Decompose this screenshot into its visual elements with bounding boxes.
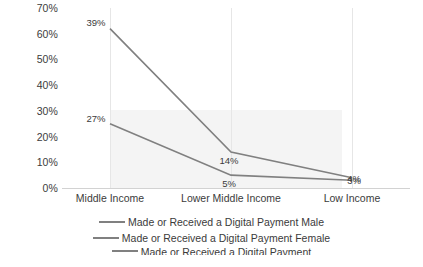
legend-item-male[interactable]: Made or Received a Digital Payment Male — [0, 214, 423, 230]
data-label: 14% — [219, 156, 238, 166]
x-axis-tick: Low Income — [324, 192, 381, 204]
legend-item-overall[interactable]: Made or Received a Digital Payment — [0, 246, 423, 255]
line-chart: 70%60%50%40%30%20%10%0% 39%14%4%27%5%3% … — [0, 0, 423, 267]
legend-swatch-overall — [112, 250, 138, 252]
legend-item-female[interactable]: Made or Received a Digital Payment Femal… — [0, 230, 423, 246]
x-axis-tick: Middle Income — [76, 192, 144, 204]
legend-label-overall: Made or Received a Digital Payment — [141, 246, 311, 255]
legend-swatch-female — [93, 237, 119, 239]
data-label: 27% — [86, 114, 105, 124]
legend-label-male: Made or Received a Digital Payment Male — [128, 216, 324, 228]
data-label: 39% — [86, 18, 105, 28]
data-label: 5% — [222, 179, 236, 189]
x-axis: Middle IncomeLower Middle IncomeLow Inco… — [62, 192, 410, 208]
chart-legend: Made or Received a Digital Payment Male … — [0, 214, 423, 255]
data-label: 3% — [347, 176, 361, 186]
legend-label-female: Made or Received a Digital Payment Femal… — [122, 232, 330, 244]
legend-swatch-male — [99, 221, 125, 223]
x-axis-tick: Lower Middle Income — [181, 192, 281, 204]
